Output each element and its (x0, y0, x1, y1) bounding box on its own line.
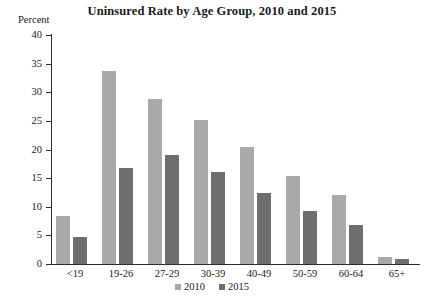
bar-2010-<19 (56, 216, 70, 264)
bar-group (282, 35, 328, 264)
bar-2010-30-39 (194, 120, 208, 264)
bar-2010-40-49 (240, 147, 254, 264)
x-axis-label-27-29: 27-29 (144, 268, 190, 279)
bar-2015-65+ (395, 259, 409, 264)
x-axis-label-65+: 65+ (374, 268, 420, 279)
bar-2015-30-39 (211, 172, 225, 264)
bar-2015-<19 (73, 237, 87, 264)
bar-2015-19-26 (119, 168, 133, 264)
y-axis-unit-label: Percent (18, 14, 50, 25)
legend-swatch-icon (175, 284, 181, 290)
legend-label: 2015 (228, 282, 249, 292)
y-axis-tick-label: 40 (0, 30, 42, 40)
legend-item-2010[interactable]: 2010 (175, 282, 205, 292)
y-axis-tick-label: 15 (0, 173, 42, 183)
x-axis-label-<19: <19 (52, 268, 98, 279)
x-axis-label-60-64: 60-64 (328, 268, 374, 279)
x-axis-label-19-26: 19-26 (98, 268, 144, 279)
bar-2015-50-59 (303, 211, 317, 264)
legend-item-2015[interactable]: 2015 (219, 282, 249, 292)
x-axis-label-50-59: 50-59 (282, 268, 328, 279)
y-axis-tick-label: 25 (0, 116, 42, 126)
bar-2015-27-29 (165, 155, 179, 264)
x-axis-label-30-39: 30-39 (190, 268, 236, 279)
y-axis-tick-label: 0 (0, 259, 42, 269)
bar-2010-27-29 (148, 99, 162, 264)
y-axis-tick-label: 35 (0, 59, 42, 69)
bar-2015-60-64 (349, 225, 363, 264)
chart-legend: 20102015 (0, 282, 424, 292)
y-axis-tick-label: 10 (0, 202, 42, 212)
chart-title: Uninsured Rate by Age Group, 2010 and 20… (0, 4, 424, 19)
y-axis-tick-label: 30 (0, 87, 42, 97)
legend-label: 2010 (184, 282, 205, 292)
x-axis-line (51, 264, 420, 265)
bar-group (374, 35, 420, 264)
bar-2010-50-59 (286, 176, 300, 264)
bar-group (236, 35, 282, 264)
y-axis-tick-label: 20 (0, 145, 42, 155)
bar-2010-19-26 (102, 71, 116, 264)
legend-swatch-icon (219, 284, 225, 290)
y-axis-tick-label: 5 (0, 230, 42, 240)
x-axis-label-40-49: 40-49 (236, 268, 282, 279)
bar-group (98, 35, 144, 264)
bar-2010-65+ (378, 257, 392, 264)
bar-group (144, 35, 190, 264)
bar-group (52, 35, 98, 264)
y-axis-tick (46, 264, 52, 265)
bar-2010-60-64 (332, 195, 346, 264)
bar-group (328, 35, 374, 264)
bar-group (190, 35, 236, 264)
bar-2015-40-49 (257, 193, 271, 264)
chart-container: Uninsured Rate by Age Group, 2010 and 20… (0, 0, 424, 298)
